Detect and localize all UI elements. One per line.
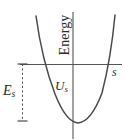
x-axis-title: s	[112, 66, 117, 78]
energy-label-base: E	[3, 83, 12, 98]
energy-label-subscript: s	[12, 89, 16, 99]
potential-curve	[36, 15, 115, 123]
curve-label-subscript: s	[64, 84, 68, 94]
curve-label: Us	[55, 79, 68, 94]
energy-label: Es	[3, 84, 15, 100]
curve-label-base: U	[55, 78, 64, 93]
potential-energy-diagram: Energy s Us Es	[0, 0, 124, 140]
y-axis-title: Energy	[58, 15, 72, 56]
